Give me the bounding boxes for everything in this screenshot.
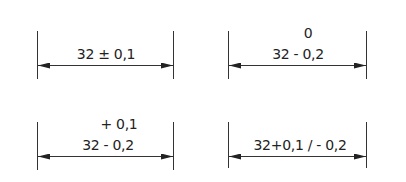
dimension-text-lower-only: 32 - 0,2 (272, 47, 324, 61)
upper-deviation-text: 0 (304, 26, 313, 40)
dimension-text-stacked: 32 - 0,2 (82, 138, 134, 152)
upper-deviation-text: + 0,1 (101, 117, 138, 131)
dimension-text-inline: 32+0,1 / - 0,2 (254, 138, 347, 152)
dimension-diagram (0, 0, 406, 182)
dimension-text-symmetric: 32 ± 0,1 (77, 47, 135, 61)
